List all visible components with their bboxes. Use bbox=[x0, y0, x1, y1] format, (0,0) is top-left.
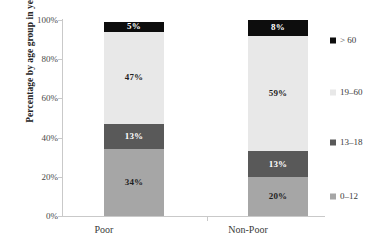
legend-item[interactable]: 13–18 bbox=[330, 138, 363, 147]
bar-segment: 34% bbox=[104, 149, 164, 216]
x-category-label-poor: Poor bbox=[44, 224, 164, 235]
chart-legend: > 6019–6013–180–12 bbox=[330, 0, 377, 247]
legend-item-label: 19–60 bbox=[340, 88, 363, 97]
y-axis-tick-label: 100% bbox=[24, 16, 58, 25]
y-axis-tick-label: 40% bbox=[24, 133, 58, 142]
stacked-bar-chart: Percentage by age group in years 0%20%40… bbox=[0, 0, 377, 247]
legend-swatch-icon bbox=[330, 37, 336, 43]
legend-swatch-icon bbox=[330, 139, 336, 145]
legend-item[interactable]: 0–12 bbox=[330, 192, 358, 201]
x-axis-tick-mark bbox=[207, 216, 208, 221]
x-category-label-non-poor: Non-Poor bbox=[188, 224, 308, 235]
x-axis-line bbox=[62, 216, 325, 217]
y-axis-tick-mark bbox=[58, 216, 62, 217]
plot-area: 5%47%13%34%8%59%13%20% bbox=[62, 20, 325, 216]
bar-group-poor: 5%47%13%34% bbox=[104, 22, 164, 216]
bar-group-non-poor: 8%59%13%20% bbox=[248, 20, 308, 216]
bar-segment-value-label: 13% bbox=[269, 160, 288, 169]
bar-segment: 13% bbox=[248, 151, 308, 176]
bar-segment-value-label: 34% bbox=[125, 178, 144, 187]
bar-segment-value-label: 5% bbox=[127, 22, 141, 31]
y-axis-tick-label: 80% bbox=[24, 55, 58, 64]
legend-swatch-icon bbox=[330, 193, 336, 199]
bar-segment-value-label: 20% bbox=[269, 192, 288, 201]
y-axis-tick-label: 20% bbox=[24, 172, 58, 181]
legend-item-label: > 60 bbox=[340, 36, 356, 45]
legend-item[interactable]: 19–60 bbox=[330, 88, 363, 97]
bar-segment: 5% bbox=[104, 22, 164, 32]
bar-segment: 20% bbox=[248, 177, 308, 216]
bar-segment: 59% bbox=[248, 36, 308, 152]
bar-segment-value-label: 59% bbox=[269, 89, 288, 98]
legend-item-label: 0–12 bbox=[340, 192, 358, 201]
bar-segment-value-label: 8% bbox=[271, 23, 285, 32]
y-axis-tick-label: 0% bbox=[24, 212, 58, 221]
bar-segment-value-label: 47% bbox=[125, 73, 144, 82]
y-axis-tick-label: 60% bbox=[24, 94, 58, 103]
legend-item-label: 13–18 bbox=[340, 138, 363, 147]
bar-segment: 13% bbox=[104, 124, 164, 149]
bar-segment: 47% bbox=[104, 32, 164, 124]
legend-swatch-icon bbox=[330, 89, 336, 95]
bar-segment-value-label: 13% bbox=[125, 132, 144, 141]
legend-item[interactable]: > 60 bbox=[330, 36, 356, 45]
bar-segment: 8% bbox=[248, 20, 308, 36]
